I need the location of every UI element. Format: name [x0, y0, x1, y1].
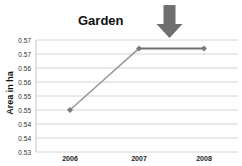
y-tick-label: 0.57: [18, 51, 31, 58]
data-point-marker: [201, 45, 207, 51]
y-tick-label: 0.56: [18, 65, 31, 72]
y-tick-label: 0.55: [18, 107, 31, 114]
y-tick-label: 0.54: [18, 121, 31, 128]
y-tick-label: 0.53: [18, 149, 31, 156]
line-chart: Garden Area in ha 0.530.540.540.550.550.…: [0, 0, 242, 166]
y-tick-label: 0.56: [18, 79, 31, 86]
series-line-segment: [70, 48, 139, 110]
down-arrow-icon: [157, 5, 183, 38]
y-tick-label: 0.57: [18, 37, 31, 44]
y-tick-label: 0.54: [18, 135, 31, 142]
x-tick-label: 2008: [196, 155, 212, 162]
x-tick-label: 2006: [62, 155, 78, 162]
y-tick-label: 0.55: [18, 93, 31, 100]
x-tick-label: 2007: [131, 155, 147, 162]
plot-area: 0.530.540.540.550.550.560.560.570.572006…: [0, 0, 242, 166]
